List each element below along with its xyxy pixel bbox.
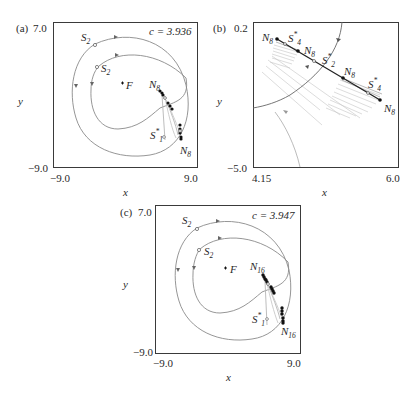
- panel-b-n1-label: N8: [262, 32, 273, 43]
- panel-c-curves: [90, 195, 310, 394]
- panel-c-s2-inner-label: S2: [204, 246, 213, 257]
- panel-c-s2-outer-label: S2: [182, 215, 191, 226]
- panel-b-s4b-label: S*4: [368, 79, 381, 90]
- panel-b-curves: [210, 0, 414, 200]
- panel-a-s2-inner-label: S2: [101, 63, 110, 74]
- panel-b-n2-label: N8: [304, 45, 315, 56]
- panel-c-s1-label: S*1: [252, 314, 265, 325]
- panel-b: (b) 0.2 −5.0 4.15 6.0 x y: [210, 0, 414, 200]
- panel-b-s2-label: S*2: [322, 55, 335, 66]
- panel-c-n-lower-label: N16: [281, 326, 296, 337]
- panel-c-n-upper-label: N16: [250, 261, 265, 272]
- panel-c-focus-label: F: [230, 264, 237, 275]
- panel-b-s4a-label: S*4: [288, 33, 301, 44]
- panel-a-s1-label: S*1: [150, 130, 163, 141]
- panel-b-n3-label: N8: [344, 66, 355, 77]
- panel-c-param-label: c = 3.947: [252, 210, 295, 221]
- panel-a-param-label: c = 3.936: [149, 26, 192, 37]
- panel-a-n-lower-label: N8: [180, 145, 191, 156]
- panel-a: (a) 7.0 −9.0 −9.0 9.0 x y: [0, 0, 210, 200]
- panel-a-focus-label: F: [126, 80, 133, 91]
- panel-a-s2-outer-label: S2: [81, 32, 90, 43]
- panel-c: (c) 7.0 −9.0 −9.0 9.0 x y: [90, 195, 310, 394]
- panel-b-n4-label: N8: [384, 103, 395, 114]
- panel-a-n-upper-label: N8: [149, 79, 160, 90]
